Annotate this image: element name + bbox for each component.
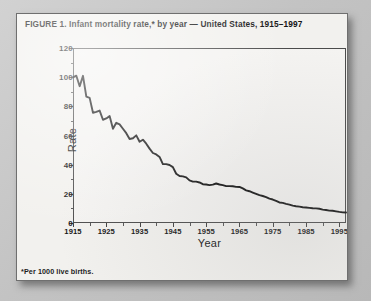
x-tick-mark — [256, 223, 257, 226]
x-tick-mark — [289, 223, 290, 226]
x-tick-mark — [190, 223, 191, 226]
x-tick-label: 1995 — [319, 227, 348, 236]
y-tick-mark — [71, 92, 74, 93]
y-tick-label: 20 — [33, 189, 73, 198]
x-tick-mark — [323, 223, 324, 226]
figure-card: FIGURE 1. Infant mortality rate,* by yea… — [16, 13, 348, 281]
y-tick-mark — [71, 121, 74, 122]
y-tick-mark — [71, 150, 74, 151]
figure-title: FIGURE 1. Infant mortality rate,* by yea… — [25, 19, 341, 29]
line-series-infant-mortality — [73, 48, 346, 223]
x-tick-mark — [90, 223, 91, 226]
y-tick-label: 60 — [33, 131, 73, 140]
y-tick-mark — [71, 179, 74, 180]
figure-footnote: *Per 1000 live births. — [21, 267, 94, 276]
y-tick-mark — [71, 208, 74, 209]
x-axis-label: Year — [73, 237, 346, 249]
y-tick-label: 40 — [33, 160, 73, 169]
y-tick-label: 100 — [33, 73, 73, 82]
x-tick-mark — [156, 223, 157, 226]
y-tick-label: 120 — [33, 44, 73, 53]
y-tick-mark — [71, 63, 74, 64]
x-tick-mark — [223, 223, 224, 226]
x-tick-mark — [123, 223, 124, 226]
page-background: FIGURE 1. Infant mortality rate,* by yea… — [0, 0, 371, 301]
y-tick-label: 80 — [33, 102, 73, 111]
chart-plot-area: Rate Year 020406080100120 19151925193519… — [73, 34, 347, 246]
